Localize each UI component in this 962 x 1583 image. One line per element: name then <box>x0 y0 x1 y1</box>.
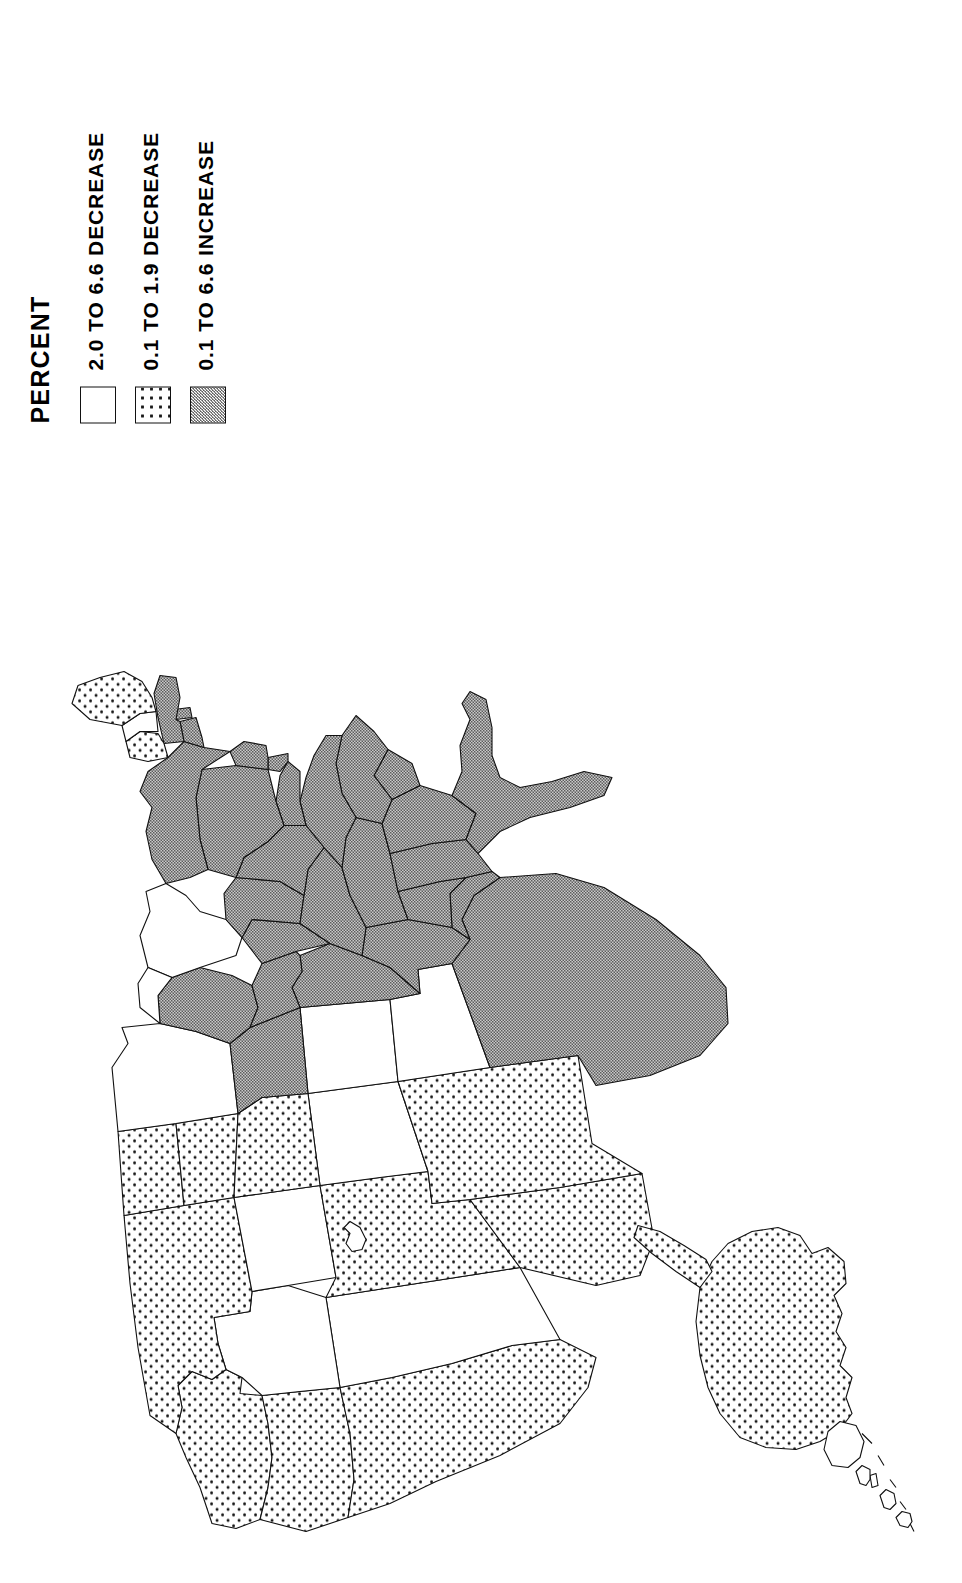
state-southdakota <box>176 1113 238 1205</box>
map-container <box>0 423 962 1583</box>
state-florida <box>452 691 612 853</box>
legend-label-increase: 0.1 TO 6.6 INCREASE <box>194 140 218 370</box>
state-alaska <box>696 1227 852 1449</box>
legend-label-decrease-small: 0.1 TO 1.9 DECREASE <box>139 132 163 370</box>
state-nebraska <box>234 1093 320 1197</box>
us-choropleth-map <box>0 423 962 1583</box>
state-newjersey <box>230 741 268 769</box>
state-kansas <box>300 999 398 1093</box>
legend-swatch-decrease-large <box>80 386 116 423</box>
state-oregon <box>260 1387 354 1531</box>
legend-swatch-decrease-small <box>135 386 171 423</box>
state-wyoming <box>234 1185 336 1291</box>
figure-rotator: PERCENT 2.0 TO 6.6 DECREASE 0.1 TO 1.9 D… <box>0 0 962 1583</box>
state-texas <box>452 873 728 1085</box>
hawaii-inset <box>824 1421 912 1527</box>
state-hawaii-kauai <box>896 1511 912 1527</box>
legend-label-decrease-large: 2.0 TO 6.6 DECREASE <box>84 132 108 370</box>
state-northdakota <box>118 1123 184 1215</box>
legend-title: PERCENT <box>26 295 55 423</box>
state-hawaii-maui <box>856 1465 870 1485</box>
map-legend: PERCENT 2.0 TO 6.6 DECREASE 0.1 TO 1.9 D… <box>20 23 270 423</box>
legend-swatch-increase <box>190 386 226 423</box>
figure-inner: PERCENT 2.0 TO 6.6 DECREASE 0.1 TO 1.9 D… <box>0 0 962 1583</box>
state-hawaii-molokai <box>870 1473 878 1487</box>
state-washington <box>176 1369 272 1528</box>
state-hawaii-oahu <box>880 1489 896 1509</box>
